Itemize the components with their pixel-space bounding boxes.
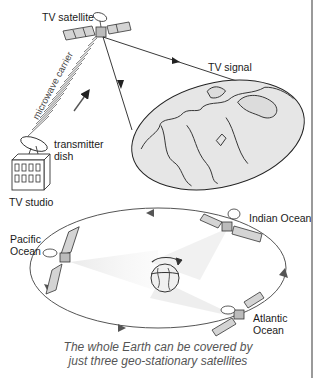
signal-line-down [103,37,132,130]
atlantic-label-line2: Ocean [253,324,287,336]
transmitter-dish-label: transmitter dish [54,138,104,162]
uplink-arrow [74,93,87,111]
indian-ocean-label: Indian Ocean [249,212,311,224]
tv-signal-label: TV signal [208,61,252,73]
transmitter-label-line2: dish [54,150,104,162]
pacific-label-line1: Pacific [10,233,41,245]
pacific-ocean-label: Pacific Ocean [10,233,41,257]
satellite-pacific-icon [43,225,79,294]
atlantic-ocean-label: Atlantic Ocean [253,312,287,336]
coverage-map [120,63,315,206]
pacific-label-line2: Ocean [10,245,41,257]
page-edge-rule [311,0,313,378]
transmitter-label-line1: transmitter [54,138,104,150]
beam-pacific [70,250,160,292]
atlantic-label-line1: Atlantic [253,312,287,324]
transmitter-dish-icon [19,134,49,155]
tv-satellite-label: TV satellite [42,11,94,23]
tv-studio-icon [12,154,50,190]
caption-line2: just three geo-stationary satellites [38,354,278,368]
diagram-caption: The whole Earth can be covered by just t… [38,340,278,368]
tv-studio-label: TV studio [9,196,53,208]
caption-line1: The whole Earth can be covered by [38,340,278,354]
